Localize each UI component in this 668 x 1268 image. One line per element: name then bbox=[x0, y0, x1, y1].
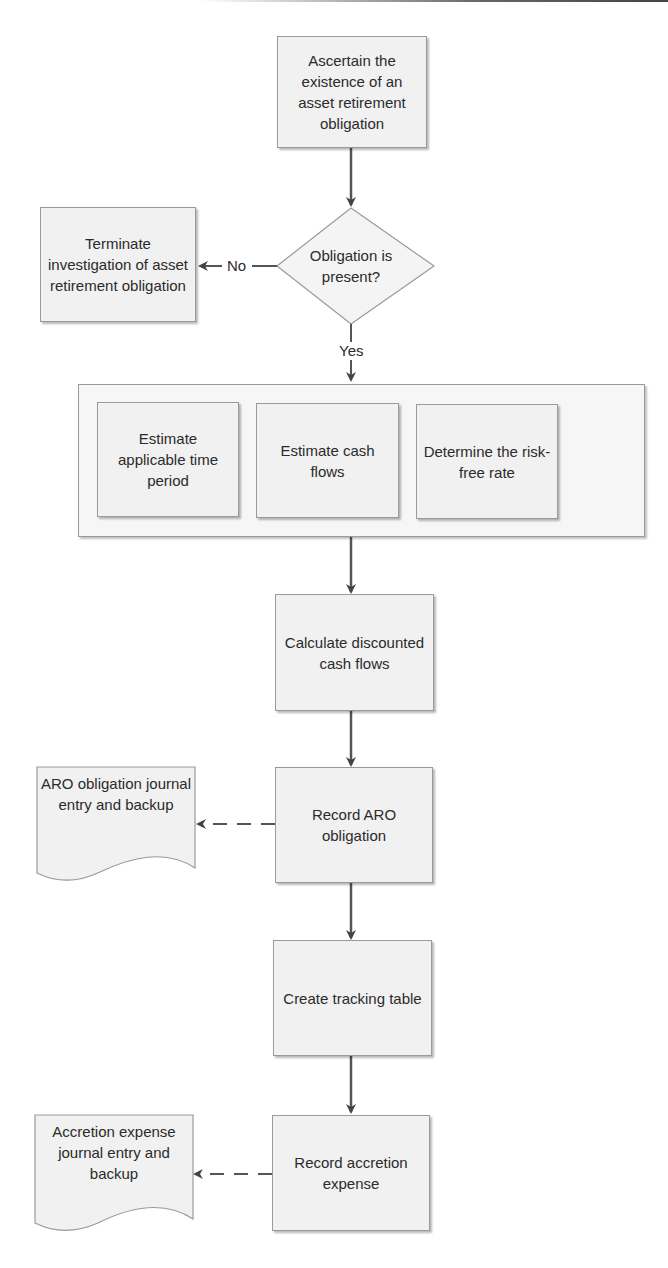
calculate-discounted-box: Calculate discounted cash flows bbox=[275, 594, 434, 711]
terminate-investigation-box: Terminate investigation of asset retirem… bbox=[40, 207, 196, 322]
terminate-investigation-text: Terminate investigation of asset retirem… bbox=[47, 233, 189, 296]
risk-free-rate-text: Determine the risk-free rate bbox=[423, 441, 551, 483]
yes-label: Yes bbox=[338, 342, 364, 360]
estimate-cash-flows-box: Estimate cash flows bbox=[256, 403, 399, 518]
record-aro-text: Record ARO obligation bbox=[282, 804, 426, 846]
accretion-journal-text: Accretion expense journal entry and back… bbox=[35, 1121, 193, 1184]
record-accretion-box: Record accretion expense bbox=[272, 1115, 430, 1231]
estimate-time-period-box: Estimate applicable time period bbox=[97, 402, 239, 517]
decision-label: Obligation is present? bbox=[288, 245, 414, 287]
aro-journal-document: ARO obligation journal entry and backup bbox=[37, 767, 195, 857]
create-tracking-table-box: Create tracking table bbox=[273, 940, 432, 1056]
ascertain-obligation-box: Ascertain the existence of an asset reti… bbox=[277, 36, 427, 148]
calculate-discounted-text: Calculate discounted cash flows bbox=[282, 632, 427, 674]
estimate-time-period-text: Estimate applicable time period bbox=[104, 428, 232, 491]
record-accretion-text: Record accretion expense bbox=[279, 1152, 423, 1194]
record-aro-box: Record ARO obligation bbox=[275, 767, 433, 883]
decision-text: Obligation is present? bbox=[288, 236, 414, 296]
create-tracking-table-text: Create tracking table bbox=[283, 988, 421, 1009]
accretion-journal-document: Accretion expense journal entry and back… bbox=[35, 1115, 193, 1205]
no-label: No bbox=[226, 257, 247, 275]
aro-journal-text: ARO obligation journal entry and backup bbox=[37, 773, 195, 815]
ascertain-obligation-text: Ascertain the existence of an asset reti… bbox=[284, 50, 420, 134]
estimate-cash-flows-text: Estimate cash flows bbox=[263, 440, 392, 482]
risk-free-rate-box: Determine the risk-free rate bbox=[416, 404, 558, 519]
